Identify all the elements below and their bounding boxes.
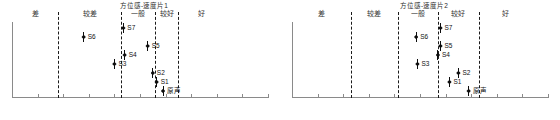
data-point-label: 原声 (167, 87, 181, 95)
x-axis-tick (166, 94, 167, 98)
diamond-marker-icon (447, 80, 451, 84)
x-axis-tick (89, 94, 90, 98)
chart-title: 方位感-速度片2 (400, 2, 448, 10)
diamond-marker-icon (122, 53, 126, 57)
x-axis-tick (497, 94, 498, 98)
chart-page: 方位感-速度片1 差较差一般较好好 S7S6S5S4S3S2S1原声 -5-4-… (0, 0, 560, 120)
x-axis-tick (12, 94, 13, 98)
x-axis-tick (522, 94, 523, 98)
data-point-label: S6 (420, 33, 428, 41)
data-point-label: S3 (118, 60, 126, 68)
data-point-label: S1 (161, 78, 169, 86)
data-point-label: S5 (152, 42, 160, 50)
x-axis-tick (292, 94, 293, 98)
diamond-marker-icon (436, 53, 440, 57)
data-point-label: S5 (444, 42, 452, 50)
category-band-label: 一般 (411, 10, 425, 18)
x-axis-tick (63, 94, 64, 98)
diamond-marker-icon (161, 89, 165, 93)
x-axis-tick (114, 94, 115, 98)
diamond-marker-icon (112, 62, 116, 66)
x-axis-tick (242, 94, 243, 98)
data-point-label: S2 (462, 69, 470, 77)
category-band-label: 较好 (160, 10, 174, 18)
category-separator-line (398, 12, 399, 98)
category-band-label: 较差 (83, 10, 97, 18)
diamond-marker-icon (81, 35, 85, 39)
chart-panel-speed-2: 方位感-速度片2 差较差一般较好好 S7S6S5S4S3S2S1原声 -5-4-… (280, 0, 560, 120)
x-axis-tick (191, 94, 192, 98)
category-band-label: 一般 (131, 10, 145, 18)
plot-area: 差较差一般较好好 S7S6S5S4S3S2S1原声 -5-4-3-2-10123… (292, 22, 548, 98)
chart-title: 方位感-速度片1 (120, 2, 168, 10)
diamond-marker-icon (456, 71, 460, 75)
category-band-label: 好 (198, 10, 205, 18)
diamond-marker-icon (466, 89, 470, 93)
diamond-marker-icon (438, 26, 442, 30)
x-axis-tick (446, 94, 447, 98)
category-band-label: 较差 (367, 10, 381, 18)
x-axis-tick (217, 94, 218, 98)
plot-area: 差较差一般较好好 S7S6S5S4S3S2S1原声 -5-4-3-2-10123… (12, 22, 268, 98)
category-separator-line (479, 12, 480, 98)
y-axis-line (12, 22, 13, 98)
category-band-label: 较好 (451, 10, 465, 18)
diamond-marker-icon (415, 62, 419, 66)
category-band-label: 差 (318, 10, 325, 18)
diamond-marker-icon (414, 35, 418, 39)
diamond-marker-icon (145, 44, 149, 48)
diamond-marker-icon (151, 71, 155, 75)
x-axis-tick (318, 94, 319, 98)
data-point-label: 原声 (473, 87, 487, 95)
category-separator-line (351, 12, 352, 98)
diamond-marker-icon (121, 26, 125, 30)
data-point-label: S4 (442, 51, 450, 59)
x-axis-tick (343, 94, 344, 98)
data-point-label: S4 (129, 51, 137, 59)
x-axis-tick (394, 94, 395, 98)
data-point-label: S7 (127, 24, 135, 32)
x-axis-tick (38, 94, 39, 98)
data-point-label: S6 (88, 33, 96, 41)
data-point-label: S7 (444, 24, 452, 32)
x-axis-tick (140, 94, 141, 98)
data-point-label: S2 (157, 69, 165, 77)
data-point-label: S1 (453, 78, 461, 86)
y-axis-line (292, 22, 293, 98)
category-band-label: 差 (32, 10, 39, 18)
data-point-label: S3 (421, 60, 429, 68)
x-axis-tick (268, 94, 269, 98)
x-axis-tick (420, 94, 421, 98)
x-axis-tick (471, 94, 472, 98)
x-axis-tick (548, 94, 549, 98)
category-separator-line (121, 12, 122, 98)
category-band-label: 好 (502, 10, 509, 18)
chart-panel-speed-1: 方位感-速度片1 差较差一般较好好 S7S6S5S4S3S2S1原声 -5-4-… (0, 0, 280, 120)
diamond-marker-icon (438, 44, 442, 48)
category-separator-line (58, 12, 59, 98)
category-separator-line (178, 12, 179, 98)
x-axis-tick (369, 94, 370, 98)
